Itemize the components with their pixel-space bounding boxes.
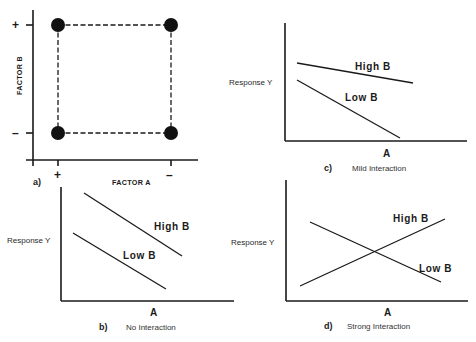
x-tick-minus: – — [166, 168, 173, 182]
response-y-label: Response Y — [231, 238, 275, 247]
x-axis-label: A — [383, 148, 391, 159]
x-tick-plus: + — [54, 168, 61, 182]
design-point — [164, 18, 178, 32]
response-y-label: Response Y — [229, 78, 273, 87]
design-point — [51, 18, 65, 32]
panel-a: + – + – FACTOR A FACTOR B a) — [12, 10, 198, 187]
figure-canvas: + – + – FACTOR A FACTOR B a) High B Low … — [0, 0, 476, 342]
design-point — [164, 126, 178, 140]
x-axis-label: A — [384, 307, 392, 318]
panel-d-tag: d) — [324, 321, 333, 331]
factor-a-label: FACTOR A — [112, 178, 151, 187]
factor-b-label: FACTOR B — [15, 56, 24, 95]
high-b-label: High B — [355, 61, 391, 72]
x-axis-label: A — [150, 307, 158, 318]
low-b-line — [297, 80, 400, 138]
low-b-label: Low B — [123, 250, 156, 261]
low-b-label: Low B — [345, 92, 378, 103]
panel-c: High B Low B Response Y A c) Mild Intera… — [229, 23, 467, 173]
y-tick-minus: – — [12, 126, 19, 140]
panel-a-tag: a) — [33, 177, 41, 187]
high-b-label: High B — [154, 221, 190, 232]
y-tick-plus: + — [12, 18, 19, 32]
panel-c-tag: c) — [324, 163, 332, 173]
low-b-line — [73, 233, 166, 289]
panel-b-tag: b) — [99, 322, 108, 332]
design-point — [51, 126, 65, 140]
high-b-line — [300, 219, 445, 286]
low-b-label: Low B — [419, 263, 452, 274]
high-b-label: High B — [393, 213, 429, 224]
panel-b: High B Low B Response Y A b) No Interact… — [7, 187, 234, 332]
panel-b-caption: No Interaction — [126, 323, 176, 332]
response-y-label: Response Y — [7, 236, 51, 245]
panel-c-caption: Mild Interaction — [352, 164, 406, 173]
panel-d-caption: Strong Interaction — [347, 322, 410, 331]
panel-d: High B Low B Response Y A d) Strong Inte… — [231, 180, 468, 331]
